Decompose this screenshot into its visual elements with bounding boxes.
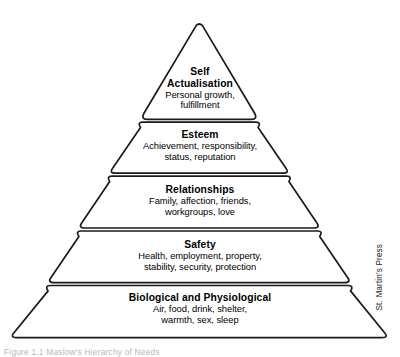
figure-caption: Figure 1.1 Maslow's Hierarchy of Needs [4, 347, 264, 357]
maslow-pyramid-figure: SelfActualisation Personal growth,fulfil… [0, 0, 400, 357]
tier-title-relationships: Relationships [76, 184, 324, 196]
tier-title-self-actualisation: SelfActualisation [120, 66, 280, 89]
pyramid-tier-label-self-actualisation: SelfActualisation Personal growth,fulfil… [120, 66, 280, 111]
publisher-credit: St. Martin's Press [375, 215, 384, 311]
tier-title-biological-and-physiological: Biological and Physiological [36, 292, 364, 304]
tier-description-relationships: Family, affection, friends,workgroups, l… [76, 196, 324, 217]
pyramid-tier-label-relationships: Relationships Family, affection, friends… [76, 184, 324, 217]
tier-description-self-actualisation: Personal growth,fulfillment [120, 90, 280, 111]
pyramid-tier-label-esteem: Esteem Achievement, responsibility,statu… [96, 129, 304, 162]
tier-title-esteem: Esteem [96, 129, 304, 141]
pyramid-tier-label-biological-and-physiological: Biological and Physiological Air, food, … [36, 292, 364, 325]
pyramid-tier-label-safety: Safety Health, employment, property,stab… [58, 239, 342, 272]
tier-description-biological-and-physiological: Air, food, drink, shelter,warmth, sex, s… [36, 304, 364, 325]
tier-title-safety: Safety [58, 239, 342, 251]
tier-description-esteem: Achievement, responsibility,status, repu… [96, 141, 304, 162]
tier-description-safety: Health, employment, property,stability, … [58, 251, 342, 272]
